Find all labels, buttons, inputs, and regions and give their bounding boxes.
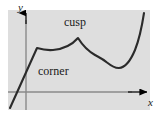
y-axis-label: y xyxy=(18,2,23,13)
calculus-curve-figure: cusp corner y x xyxy=(0,0,158,119)
x-axis-label: x xyxy=(148,97,153,108)
annotation-label-corner: corner xyxy=(38,65,69,77)
annotation-label-cusp: cusp xyxy=(64,16,86,28)
